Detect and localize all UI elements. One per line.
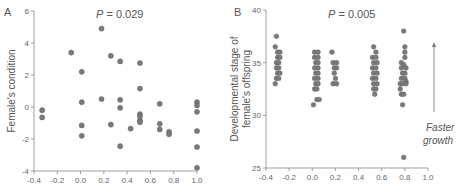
data-point — [401, 29, 406, 34]
x-tick-label: 0.2 — [98, 176, 110, 185]
x-tick-label: 0.8 — [168, 176, 180, 185]
panel-a: A P = 0.029 Female's condition -0.4-0.20… — [4, 6, 203, 185]
data-point — [375, 81, 380, 86]
data-point — [315, 87, 320, 92]
points-b — [273, 29, 409, 160]
data-point — [330, 50, 335, 55]
x-tick-label: 0.0 — [307, 173, 319, 182]
x-tick-label: -0.2 — [50, 176, 64, 185]
data-point — [402, 50, 407, 55]
data-point — [334, 81, 339, 86]
data-point — [194, 128, 199, 133]
data-point — [273, 44, 278, 49]
data-point — [372, 92, 377, 97]
data-point — [276, 76, 281, 81]
data-point — [374, 55, 379, 60]
y-tick-label: 0 — [25, 103, 30, 112]
y-tick-label: 30 — [252, 111, 261, 120]
data-point — [317, 97, 322, 102]
x-tick-label: -0.4 — [27, 176, 41, 185]
y-tick-label: 6 — [25, 7, 30, 16]
points-a — [40, 26, 200, 170]
data-point — [194, 165, 199, 170]
figure: A P = 0.029 Female's condition -0.4-0.20… — [0, 0, 457, 192]
data-point — [400, 102, 405, 107]
data-point — [398, 87, 403, 92]
svg-text:P = 0.005: P = 0.005 — [328, 8, 375, 20]
p-value-b: P = 0.005 — [328, 8, 375, 20]
y-tick-label: 35 — [252, 59, 261, 68]
y-axis-label-b-line2: female's offspring — [241, 50, 252, 128]
annotation-faster: Faster — [426, 122, 455, 133]
data-point — [374, 87, 379, 92]
data-point — [374, 66, 379, 71]
data-point — [166, 132, 171, 137]
data-point — [108, 122, 113, 127]
data-point — [374, 76, 379, 81]
y-tick-label: 2 — [25, 71, 30, 80]
x-tick-label: -0.4 — [259, 173, 273, 182]
data-point — [277, 50, 282, 55]
data-point — [40, 115, 45, 120]
axes-b: -0.4-0.20.00.20.40.60.81.025303540 — [252, 6, 434, 182]
y-tick-label: -2 — [22, 135, 30, 144]
data-point — [276, 60, 281, 65]
x-tick-label: 0.8 — [399, 173, 411, 182]
data-point — [99, 96, 104, 101]
x-tick-label: -0.2 — [282, 173, 296, 182]
y-tick-label: 25 — [252, 164, 261, 173]
x-tick-label: 1.0 — [422, 173, 434, 182]
data-point — [375, 60, 380, 65]
annotation-growth: growth — [423, 135, 453, 146]
data-point — [137, 120, 142, 125]
data-point — [194, 144, 199, 149]
data-point — [334, 60, 339, 65]
data-point — [316, 81, 321, 86]
data-point — [118, 59, 123, 64]
data-point — [277, 55, 282, 60]
data-point — [316, 71, 321, 76]
data-point — [118, 144, 123, 149]
x-tick-label: 0.6 — [376, 173, 388, 182]
data-point — [273, 81, 278, 86]
data-point — [399, 66, 404, 71]
data-point — [402, 44, 407, 49]
data-point — [108, 53, 113, 58]
data-point — [194, 109, 199, 114]
data-point — [79, 123, 84, 128]
data-point — [401, 155, 406, 160]
data-point — [157, 127, 162, 132]
svg-text:P = 0.029: P = 0.029 — [96, 8, 143, 20]
data-point — [274, 34, 279, 39]
data-point — [157, 121, 162, 126]
axes-a: -0.4-0.20.00.20.40.60.81.0-4-20246 — [22, 7, 203, 185]
y-tick-label: 4 — [25, 39, 30, 48]
x-tick-label: 1.0 — [191, 176, 203, 185]
data-point — [79, 133, 84, 138]
data-point — [79, 100, 84, 105]
data-point — [118, 97, 123, 102]
data-point — [157, 101, 162, 106]
x-tick-label: 0.0 — [75, 176, 87, 185]
data-point — [316, 76, 321, 81]
data-point — [374, 50, 379, 55]
data-point — [137, 60, 142, 65]
x-tick-label: 0.4 — [122, 176, 134, 185]
data-point — [79, 69, 84, 74]
x-tick-label: 0.2 — [330, 173, 342, 182]
data-point — [276, 66, 281, 71]
data-point — [311, 102, 316, 107]
y-tick-label: -4 — [22, 167, 30, 176]
data-point — [128, 126, 133, 131]
panel-label-a: A — [4, 6, 12, 18]
data-point — [332, 71, 337, 76]
y-axis-label-a: Female's condition — [6, 49, 17, 132]
data-point — [137, 86, 142, 91]
data-point — [118, 105, 123, 110]
data-point — [69, 50, 74, 55]
data-point — [99, 26, 104, 31]
panel-label-b: B — [234, 6, 241, 18]
y-tick-label: 40 — [252, 6, 261, 15]
data-point — [316, 60, 321, 65]
data-point — [40, 108, 45, 113]
